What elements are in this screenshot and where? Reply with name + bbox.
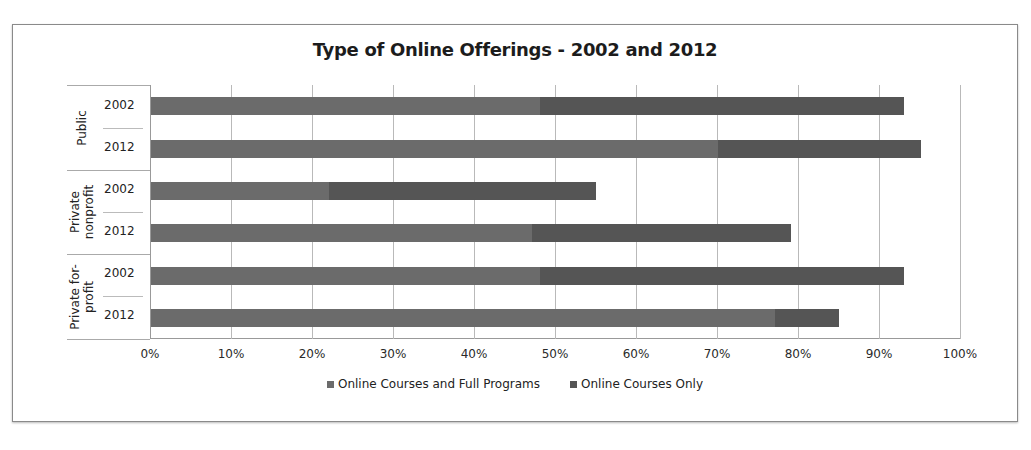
bar-segment-courses-only — [540, 97, 905, 115]
gridline — [555, 85, 556, 339]
gridline — [231, 85, 232, 339]
gridline — [636, 85, 637, 339]
x-tick-label: 100% — [943, 347, 977, 361]
bar-segment-full-programs — [151, 182, 329, 200]
group-label-public: Public — [75, 110, 89, 146]
bar-segment-full-programs — [151, 224, 532, 242]
gridline — [798, 85, 799, 339]
gridline — [960, 85, 961, 339]
legend-label: Online Courses and Full Programs — [338, 377, 540, 391]
bar — [151, 309, 839, 327]
year-label: 2002 — [104, 182, 135, 196]
chart-title: Type of Online Offerings - 2002 and 2012 — [13, 39, 1017, 60]
bar — [151, 267, 904, 285]
bar-segment-full-programs — [151, 97, 540, 115]
x-tick-label: 0% — [140, 347, 159, 361]
bar-segment-courses-only — [540, 267, 905, 285]
bar-segment-full-programs — [151, 267, 540, 285]
year-label: 2012 — [104, 140, 135, 154]
x-tick-label: 50% — [542, 347, 569, 361]
x-tick-label: 10% — [218, 347, 245, 361]
bar-segment-courses-only — [775, 309, 840, 327]
bar — [151, 97, 904, 115]
legend-item-full-programs: Online Courses and Full Programs — [327, 377, 540, 391]
x-tick-label: 40% — [461, 347, 488, 361]
bar — [151, 224, 791, 242]
year-label: 2002 — [104, 266, 135, 280]
separator — [103, 212, 143, 213]
group-public: Public 2002 2012 — [67, 86, 150, 171]
bar — [151, 182, 596, 200]
plot-area — [150, 85, 960, 339]
year-label: 2012 — [104, 308, 135, 322]
legend-swatch — [327, 381, 334, 388]
bar-segment-courses-only — [718, 140, 921, 158]
legend-label: Online Courses Only — [581, 377, 703, 391]
chart-frame: Type of Online Offerings - 2002 and 2012… — [12, 24, 1018, 422]
bar-segment-courses-only — [532, 224, 791, 242]
x-tick-label: 80% — [785, 347, 812, 361]
y-axis-line — [150, 85, 151, 339]
year-label: 2012 — [104, 224, 135, 238]
bar-segment-full-programs — [151, 309, 775, 327]
x-tick-label: 70% — [704, 347, 731, 361]
x-tick-label: 30% — [380, 347, 407, 361]
separator — [103, 128, 143, 129]
group-label-private-for-profit: Private for- profit — [68, 264, 96, 330]
bar — [151, 140, 921, 158]
bar-segment-full-programs — [151, 140, 718, 158]
gridline — [717, 85, 718, 339]
group-label-private-nonprofit: Private nonprofit — [68, 185, 96, 239]
x-tick-label: 90% — [866, 347, 893, 361]
legend-swatch — [570, 381, 577, 388]
x-tick-label: 60% — [623, 347, 650, 361]
category-axis: Public 2002 2012 Private nonprofit 2002 … — [67, 85, 150, 340]
legend: Online Courses and Full Programs Online … — [13, 377, 1017, 391]
bar-segment-courses-only — [329, 182, 596, 200]
x-tick-label: 20% — [299, 347, 326, 361]
gridline — [474, 85, 475, 339]
gridline — [312, 85, 313, 339]
group-private-nonprofit: Private nonprofit 2002 2012 — [67, 170, 150, 255]
group-private-for-profit: Private for- profit 2002 2012 — [67, 254, 150, 340]
gridline — [393, 85, 394, 339]
separator — [103, 296, 143, 297]
gridline — [879, 85, 880, 339]
legend-item-courses-only: Online Courses Only — [570, 377, 703, 391]
year-label: 2002 — [104, 98, 135, 112]
